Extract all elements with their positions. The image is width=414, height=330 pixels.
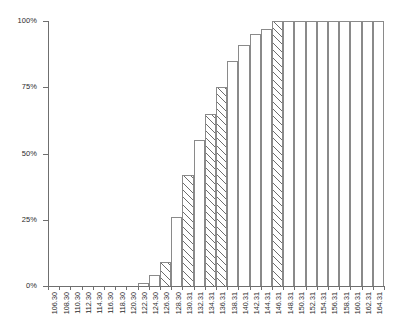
x-axis-tick	[294, 286, 295, 290]
x-axis-tick-label: 152.31	[309, 292, 316, 314]
y-axis-tick-label: 0%	[1, 282, 37, 290]
x-axis-tick-label: 154.31	[320, 292, 327, 314]
y-axis-label-slot: 100%	[0, 21, 41, 22]
x-axis-tick-label: 146.31	[275, 292, 282, 314]
x-axis-tick-label: 134.31	[208, 292, 215, 314]
x-axis-tick-label: 136.31	[219, 292, 226, 314]
bar	[261, 29, 272, 286]
x-axis-tick-label: 160.31	[354, 292, 361, 314]
x-axis-tick-label: 148.31	[287, 292, 294, 314]
bar	[328, 21, 339, 286]
x-axis-tick	[194, 286, 195, 290]
x-axis-tick	[182, 286, 183, 290]
bar	[373, 21, 384, 286]
bar	[227, 61, 238, 286]
x-axis-tick	[272, 286, 273, 290]
x-axis-tick-label: 112.30	[85, 292, 92, 314]
x-axis-tick	[328, 286, 329, 290]
x-axis-tick	[115, 286, 116, 290]
y-axis-label-slot: 25%	[0, 220, 41, 221]
x-axis-tick-label: 130.31	[186, 292, 193, 314]
y-axis-label-slot: 50%	[0, 154, 41, 155]
x-axis-tick	[205, 286, 206, 290]
x-axis-tick	[306, 286, 307, 290]
x-axis-tick	[384, 286, 385, 290]
x-axis-tick	[171, 286, 172, 290]
x-axis-tick-label: 142.31	[253, 292, 260, 314]
x-axis-tick	[339, 286, 340, 290]
x-axis-tick-label: 124.30	[152, 292, 159, 314]
x-axis-tick	[93, 286, 94, 290]
x-axis-tick-label: 156.31	[331, 292, 338, 314]
bar	[216, 87, 227, 286]
x-axis-tick-label: 164.31	[376, 292, 383, 314]
bar	[182, 175, 193, 286]
bar	[171, 217, 182, 286]
bar	[283, 21, 294, 286]
x-axis-tick	[70, 286, 71, 290]
x-axis-tick-label: 144.31	[264, 292, 271, 314]
y-axis-label-slot: 75%	[0, 87, 41, 88]
x-axis-tick-label: 132.31	[197, 292, 204, 314]
x-axis-tick	[317, 286, 318, 290]
x-axis-tick-label: 116.30	[107, 292, 114, 314]
x-axis-tick-label: 150.31	[298, 292, 305, 314]
bar	[350, 21, 361, 286]
bar	[160, 262, 171, 286]
x-axis-tick-label: 158.31	[343, 292, 350, 314]
x-axis-tick-label: 106.30	[51, 292, 58, 314]
x-axis-tick	[48, 286, 49, 290]
x-axis-tick-label: 126.30	[163, 292, 170, 314]
x-axis-tick-label: 122.30	[141, 292, 148, 314]
x-axis-tick	[238, 286, 239, 290]
x-axis-tick-label: 114.30	[96, 292, 103, 314]
x-axis-tick	[149, 286, 150, 290]
x-axis-tick	[126, 286, 127, 290]
bar	[362, 21, 373, 286]
bar	[339, 21, 350, 286]
x-axis-tick-label: 108.30	[63, 292, 70, 314]
x-axis-tick-label: 162.31	[365, 292, 372, 314]
x-axis-tick	[82, 286, 83, 290]
bar	[194, 140, 205, 286]
x-axis-tick-label: 140.31	[242, 292, 249, 314]
x-axis-tick	[227, 286, 228, 290]
x-axis-tick	[59, 286, 60, 290]
x-axis-tick-label: 120.30	[130, 292, 137, 314]
bar-series	[48, 21, 384, 286]
x-axis-tick	[160, 286, 161, 290]
y-axis-tick-label: 50%	[1, 150, 37, 158]
bar	[250, 34, 261, 286]
bar	[149, 275, 160, 286]
bar	[138, 283, 149, 286]
x-axis-tick	[261, 286, 262, 290]
y-axis-label-slot: 0%	[0, 286, 41, 287]
x-axis-tick	[216, 286, 217, 290]
bar	[205, 114, 216, 286]
cumulative-histogram-chart: 0%25%50%75%100% 106.30108.30110.30112.30…	[0, 0, 414, 330]
y-axis-tick-label: 100%	[1, 17, 37, 25]
x-axis-tick-label: 110.30	[74, 292, 81, 314]
y-axis-tick-label: 75%	[1, 83, 37, 91]
x-axis-tick	[283, 286, 284, 290]
x-axis-tick	[373, 286, 374, 290]
x-axis-tick	[362, 286, 363, 290]
x-axis-tick	[250, 286, 251, 290]
x-axis-tick	[350, 286, 351, 290]
bar	[306, 21, 317, 286]
bar	[317, 21, 328, 286]
bar	[238, 45, 249, 286]
x-axis-tick	[104, 286, 105, 290]
x-axis-tick	[138, 286, 139, 290]
bar	[272, 21, 283, 286]
x-axis-tick-label: 138.31	[231, 292, 238, 314]
y-axis-tick-label: 25%	[1, 216, 37, 224]
x-axis-tick-label: 118.30	[119, 292, 126, 314]
x-axis-tick-label: 128.30	[175, 292, 182, 314]
bar	[294, 21, 305, 286]
